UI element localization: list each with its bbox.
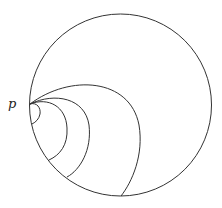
outer-circle (30, 14, 212, 196)
diagram-canvas: p (0, 0, 222, 208)
arc-2 (30, 98, 89, 177)
arc-3 (30, 102, 67, 160)
arc-4 (30, 104, 40, 124)
point-label: p (8, 96, 17, 111)
